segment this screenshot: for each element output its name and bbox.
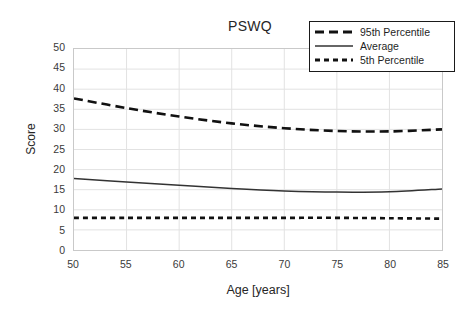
- legend-line-icon: [314, 26, 354, 38]
- x-axis-tick-60: 60: [164, 258, 194, 270]
- legend-item: 5th Percentile: [314, 53, 450, 67]
- x-axis-label: Age [years]: [73, 283, 443, 297]
- y-axis-tick-10: 10: [39, 203, 65, 215]
- y-axis-label: Score: [24, 99, 38, 179]
- y-axis-tick-15: 15: [39, 183, 65, 195]
- data-series-layer: [74, 49, 442, 250]
- y-axis-tick-50: 50: [39, 41, 65, 53]
- y-axis-tick-45: 45: [39, 61, 65, 73]
- series-line: [74, 218, 442, 219]
- legend-line-icon: [314, 40, 354, 52]
- legend-line-icon: [314, 54, 354, 66]
- chart-figure: PSWQ Score Age [years] 05101520253035404…: [0, 0, 473, 311]
- y-axis-tick-35: 35: [39, 102, 65, 114]
- y-axis-tick-20: 20: [39, 163, 65, 175]
- legend-label: 95th Percentile: [360, 26, 430, 38]
- series-line: [74, 178, 442, 192]
- x-axis-tick-85: 85: [428, 258, 458, 270]
- x-axis-tick-65: 65: [217, 258, 247, 270]
- x-axis-tick-80: 80: [375, 258, 405, 270]
- series-line: [74, 98, 442, 131]
- y-axis-tick-5: 5: [39, 224, 65, 236]
- legend-label: Average: [360, 40, 399, 52]
- x-axis-tick-70: 70: [269, 258, 299, 270]
- x-axis-tick-50: 50: [58, 258, 88, 270]
- y-axis-tick-30: 30: [39, 122, 65, 134]
- chart-legend: 95th PercentileAverage5th Percentile: [309, 21, 455, 72]
- plot-area: [73, 48, 443, 251]
- legend-label: 5th Percentile: [360, 54, 424, 66]
- chart-title: PSWQ: [180, 18, 320, 34]
- y-axis-tick-25: 25: [39, 143, 65, 155]
- legend-item: Average: [314, 39, 450, 53]
- y-axis-tick-0: 0: [39, 244, 65, 256]
- x-axis-tick-75: 75: [322, 258, 352, 270]
- x-axis-tick-55: 55: [111, 258, 141, 270]
- legend-item: 95th Percentile: [314, 25, 450, 39]
- y-axis-tick-40: 40: [39, 82, 65, 94]
